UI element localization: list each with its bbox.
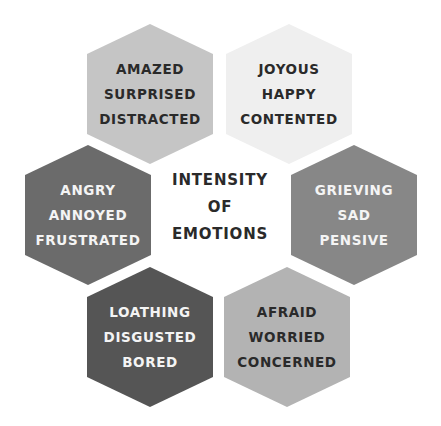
hexagon-angry: ANGRY ANNOYED FRUSTRATED — [25, 145, 151, 285]
emotion-label: HAPPY — [262, 86, 316, 102]
diagram-title: INTENSITY OF EMOTIONS — [150, 172, 290, 243]
emotion-label: FRUSTRATED — [36, 232, 141, 248]
emotion-label: LOATHING — [109, 304, 190, 320]
emotion-label: ANNOYED — [49, 207, 127, 223]
hexagon-joyous: JOYOUS HAPPY CONTENTED — [226, 24, 352, 164]
emotion-label: PENSIVE — [319, 232, 388, 248]
hexagon-loathing: LOATHING DISGUSTED BORED — [87, 267, 213, 407]
emotion-label: CONTENTED — [240, 111, 337, 127]
emotion-label: WORRIED — [249, 329, 326, 345]
hexagon-grieving: GRIEVING SAD PENSIVE — [291, 145, 417, 285]
emotion-label: JOYOUS — [258, 61, 319, 77]
title-line: EMOTIONS — [172, 226, 268, 243]
emotion-label: DISTRACTED — [99, 111, 201, 127]
emotion-label: ANGRY — [60, 182, 115, 198]
emotion-label: SAD — [337, 207, 370, 223]
emotion-label: AMAZED — [116, 61, 184, 77]
emotion-label: CONCERNED — [237, 354, 336, 370]
emotion-label: BORED — [122, 354, 178, 370]
emotion-label: SURPRISED — [104, 86, 196, 102]
emotion-label: DISGUSTED — [104, 329, 197, 345]
title-line: INTENSITY — [172, 172, 268, 189]
hexagon-amazed: AMAZED SURPRISED DISTRACTED — [87, 24, 213, 164]
emotion-label: AFRAID — [257, 304, 317, 320]
emotion-label: GRIEVING — [315, 182, 393, 198]
title-line: OF — [208, 199, 233, 216]
hexagon-afraid: AFRAID WORRIED CONCERNED — [224, 267, 350, 407]
